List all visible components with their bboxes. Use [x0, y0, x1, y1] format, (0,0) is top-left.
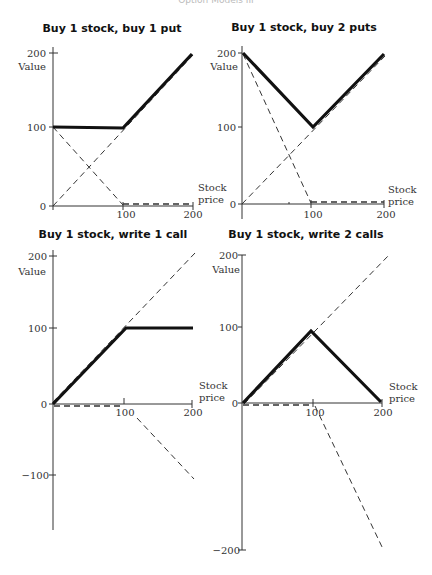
y-tick-label: 0 — [41, 399, 47, 410]
x-tick-label: 200 — [373, 407, 392, 418]
x-tick-label: 200 — [183, 209, 202, 220]
y-axis-label: Value — [211, 264, 240, 275]
y-tick-label: 100 — [217, 122, 236, 133]
call-value-line — [137, 418, 194, 479]
stock-value-line — [242, 56, 385, 204]
y-tick-label: 200 — [27, 48, 46, 59]
x-axis-label-line2: price — [389, 393, 415, 404]
portfolio-value-line — [53, 54, 192, 128]
stock-value-line — [244, 254, 390, 404]
portfolio-value-line — [53, 328, 193, 404]
y-tick-label: −100 — [22, 470, 49, 481]
chart-buy-stock-buy-2-puts: Buy 1 stock, buy 2 puts 200 Value 100 0 … — [209, 21, 417, 220]
chart-title: Buy 1 stock, write 2 calls — [228, 228, 384, 241]
y-tick-label: 200 — [28, 251, 47, 262]
x-axis-label-line2: price — [199, 392, 225, 403]
chart-title: Buy 1 stock, buy 2 puts — [231, 21, 377, 34]
y-tick-label: 100 — [219, 322, 238, 333]
x-tick-label: 100 — [305, 407, 324, 418]
y-axis-label: Value — [17, 61, 46, 72]
put-value-line — [53, 127, 123, 205]
y-tick-label: 200 — [219, 250, 238, 261]
x-axis-label-line1: Stock — [388, 184, 417, 195]
y-tick-label: −200 — [213, 545, 240, 556]
y-tick-label: 0 — [230, 199, 236, 210]
x-axis-label-line1: Stock — [389, 381, 418, 392]
x-tick-label: 100 — [116, 209, 135, 220]
chart-buy-stock-write-call: Buy 1 stock, write 1 call 200 Value 100 … — [17, 228, 228, 530]
y-tick-label: 0 — [40, 201, 46, 212]
x-axis-label-line1: Stock — [199, 380, 228, 391]
chart-buy-stock-buy-put: Buy 1 stock, buy 1 put 200 Value 100 0 1… — [17, 22, 227, 220]
y-axis-label: Value — [17, 266, 46, 277]
x-axis-label-line2: price — [198, 194, 224, 205]
x-tick-label: 200 — [376, 209, 395, 220]
figure: Option Models III Buy 1 stock, buy 1 put… — [0, 0, 432, 575]
chart-title: Buy 1 stock, write 1 call — [39, 228, 188, 241]
chart-buy-stock-write-2-calls: Buy 1 stock, write 2 calls 200 Value 100… — [211, 228, 418, 556]
y-tick-label: 100 — [28, 323, 47, 334]
x-tick-label: 100 — [303, 209, 322, 220]
y-tick-label: 100 — [27, 122, 46, 133]
portfolio-value-line — [243, 53, 384, 127]
x-axis-label-line1: Stock — [198, 182, 227, 193]
x-tick-label: 100 — [115, 407, 134, 418]
x-axis-label-line2: price — [388, 196, 414, 207]
portfolio-value-line — [243, 331, 381, 403]
calls-value-line — [315, 406, 383, 549]
y-tick-label: 0 — [232, 398, 238, 409]
y-tick-label: 200 — [217, 48, 236, 59]
x-tick-label: 200 — [183, 407, 202, 418]
chart-title: Buy 1 stock, buy 1 put — [42, 22, 181, 35]
puts-value-line — [243, 54, 311, 203]
y-axis-label: Value — [209, 61, 238, 72]
page-header-fragment: Option Models III — [178, 0, 253, 5]
